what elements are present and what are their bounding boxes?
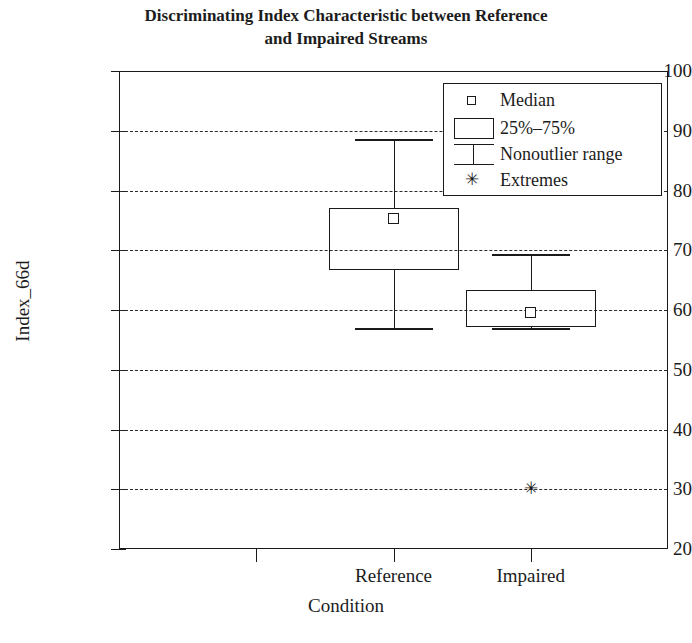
asterisk-icon: ✳ <box>460 167 484 193</box>
legend-range-symbol <box>450 140 496 168</box>
legend-item-extremes: ✳ Extremes <box>444 166 663 194</box>
i-bar-top-icon <box>454 144 494 145</box>
chart-title-line-1: Discriminating Index Characteristic betw… <box>145 6 548 25</box>
legend: Median 25%–75% Nonoutlier range ✳ Extrem… <box>443 83 662 196</box>
y-tick-label: 20 <box>632 539 692 558</box>
small-square-icon <box>467 96 476 105</box>
y-tick-mark <box>111 71 126 72</box>
median-marker <box>525 307 536 318</box>
i-bar-stem-icon <box>473 144 474 165</box>
chart-title: Discriminating Index Characteristic betw… <box>96 4 596 50</box>
whisker-cap-lower <box>355 328 433 330</box>
chart-title-line-2: and Impaired Streams <box>265 29 428 48</box>
x-tick-mark <box>531 549 532 562</box>
legend-item-iqr: 25%–75% <box>444 114 663 142</box>
y-axis-title: Index_66d <box>12 221 34 381</box>
legend-median-symbol <box>450 86 496 114</box>
rectangle-icon <box>454 118 494 139</box>
box-plot-figure: Discriminating Index Characteristic betw… <box>0 0 692 643</box>
grid-line <box>120 489 667 490</box>
legend-extremes-label: Extremes <box>500 168 568 192</box>
whisker-upper <box>531 254 532 290</box>
x-tick-label: Impaired <box>441 565 621 587</box>
whisker-cap-upper <box>355 139 433 141</box>
y-tick-mark <box>111 549 126 550</box>
x-tick-mark <box>394 549 395 562</box>
whisker-cap-upper <box>492 254 570 256</box>
whisker-cap-lower <box>492 328 570 330</box>
i-bar-bottom-icon <box>454 164 494 165</box>
whisker-upper <box>394 139 395 208</box>
x-axis-title: Condition <box>0 595 692 617</box>
x-tick-mark <box>256 549 257 562</box>
extreme-marker: ✳ <box>524 481 538 497</box>
y-tick-label: 100 <box>632 61 692 80</box>
median-marker <box>388 213 399 224</box>
legend-iqr-symbol <box>450 114 496 142</box>
legend-median-label: Median <box>500 88 555 112</box>
legend-item-nonoutlier-range: Nonoutlier range <box>444 140 663 168</box>
whisker-lower <box>394 270 395 328</box>
grid-line <box>120 430 667 431</box>
legend-iqr-label: 25%–75% <box>500 116 575 140</box>
legend-range-label: Nonoutlier range <box>500 142 622 166</box>
legend-item-median: Median <box>444 86 663 114</box>
grid-line <box>120 370 667 371</box>
legend-extremes-symbol: ✳ <box>450 166 496 194</box>
